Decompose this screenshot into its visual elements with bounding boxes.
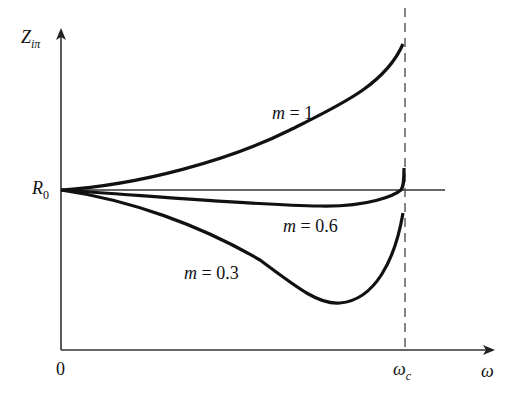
impedance-chart: Ziπ R0 0 ωc ω m = 1 m = 0.6 m = 0.3 (0, 0, 524, 403)
curve-label-m-0-6: m = 0.6 (283, 217, 338, 235)
origin-label: 0 (56, 360, 65, 378)
curve-label-m-0-3: m = 0.3 (184, 264, 239, 282)
curve-m-1 (61, 44, 403, 190)
omega-c-label-main: ω (393, 359, 406, 379)
omega-c-label-sub: c (406, 369, 411, 383)
curve-m-0-3 (61, 190, 403, 303)
y-axis-label-sub: iπ (31, 37, 40, 51)
r0-label-main: R (32, 178, 43, 198)
curve-label-m-0-6-text: m = 0.6 (283, 216, 338, 236)
omega-c-tick-label: ωc (393, 360, 411, 378)
r0-tick-label: R0 (32, 179, 49, 197)
curve-label-m-1-text: m = 1 (272, 103, 313, 123)
y-axis-label-main: Z (21, 27, 31, 47)
x-axis-label: ω (481, 362, 494, 380)
curve-label-m-0-3-text: m = 0.3 (184, 263, 239, 283)
r0-label-sub: 0 (43, 188, 49, 202)
y-axis-label: Ziπ (21, 28, 40, 46)
curve-label-m-1: m = 1 (272, 104, 313, 122)
chart-plot-area (0, 0, 524, 403)
